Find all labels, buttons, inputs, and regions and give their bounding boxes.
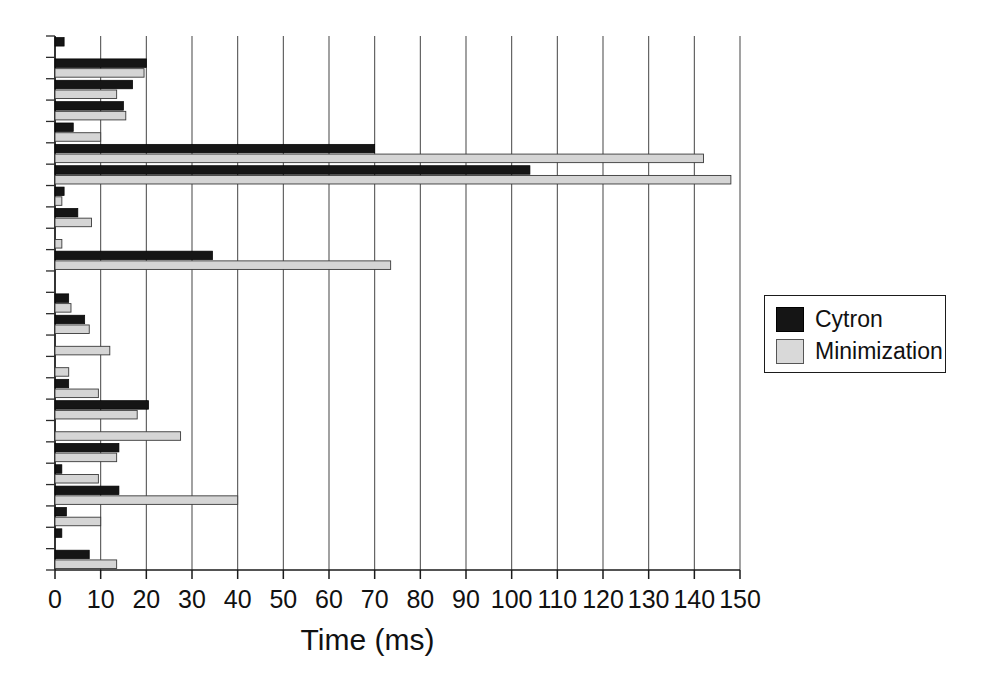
bar-cytron-24 [55, 529, 62, 538]
bar-minimization-22 [55, 496, 238, 505]
bar-minimization-2 [55, 69, 144, 78]
bar-minimization-14 [55, 325, 89, 334]
xtick-label-110: 110 [537, 585, 577, 613]
bar-minimization-16 [55, 368, 69, 377]
bar-cytron-6 [55, 144, 375, 153]
bar-minimization-18 [55, 410, 137, 419]
chart-legend: Cytron Minimization [764, 295, 946, 373]
xtick-label-140: 140 [673, 585, 715, 613]
bar-cytron-25 [55, 550, 89, 559]
legend-swatch-minimization [776, 339, 804, 364]
bar-minimization-5 [55, 133, 101, 142]
xtick-label-10: 10 [87, 585, 115, 613]
bar-cytron-23 [55, 507, 66, 516]
bar-minimization-4 [55, 111, 126, 120]
bar-cytron-17 [55, 379, 69, 388]
bar-minimization-21 [55, 474, 98, 483]
bar-cytron-1 [55, 38, 64, 47]
chart-root: 0102030405060708090100110120130140150Tim… [0, 0, 987, 689]
bar-minimization-3 [55, 90, 117, 99]
bar-minimization-11 [55, 261, 391, 270]
bar-cytron-7 [55, 166, 530, 175]
bar-cytron-9 [55, 208, 78, 217]
bar-cytron-22 [55, 486, 119, 495]
bar-minimization-15 [55, 346, 110, 355]
bar-minimization-6 [55, 154, 703, 163]
bar-cytron-5 [55, 123, 73, 132]
legend-swatch-cytron [776, 307, 804, 332]
xtick-label-70: 70 [361, 585, 389, 613]
bar-cytron-11 [55, 251, 213, 260]
xtick-label-100: 100 [491, 585, 533, 613]
bar-cytron-13 [55, 294, 69, 303]
xtick-label-60: 60 [315, 585, 343, 613]
bar-cytron-20 [55, 443, 119, 452]
bar-cytron-8 [55, 187, 64, 196]
bar-minimization-10 [55, 240, 62, 249]
bar-cytron-21 [55, 465, 62, 474]
bar-minimization-8 [55, 197, 62, 206]
xtick-label-40: 40 [224, 585, 252, 613]
x-axis-title: Time (ms) [301, 623, 435, 656]
bar-cytron-2 [55, 59, 146, 68]
bar-cytron-18 [55, 401, 149, 410]
legend-label-minimization: Minimization [815, 340, 943, 363]
legend-item-cytron: Cytron [776, 303, 936, 335]
bar-minimization-13 [55, 304, 71, 313]
bar-minimization-23 [55, 517, 101, 526]
xtick-label-30: 30 [178, 585, 206, 613]
xtick-label-130: 130 [628, 585, 670, 613]
bar-minimization-19 [55, 432, 181, 441]
xtick-label-50: 50 [269, 585, 297, 613]
legend-item-minimization: Minimization [776, 335, 936, 367]
bar-cytron-3 [55, 80, 133, 89]
xtick-label-120: 120 [582, 585, 624, 613]
xtick-label-20: 20 [132, 585, 160, 613]
xtick-label-90: 90 [452, 585, 480, 613]
xtick-label-0: 0 [48, 585, 62, 613]
bar-cytron-4 [55, 102, 124, 111]
bar-minimization-20 [55, 453, 117, 462]
bar-minimization-17 [55, 389, 98, 398]
bar-minimization-7 [55, 175, 731, 184]
bar-cytron-14 [55, 315, 85, 324]
bar-minimization-25 [55, 560, 117, 569]
xtick-label-80: 80 [406, 585, 434, 613]
bar-minimization-9 [55, 218, 92, 227]
legend-label-cytron: Cytron [815, 308, 883, 331]
xtick-label-150: 150 [719, 585, 761, 613]
